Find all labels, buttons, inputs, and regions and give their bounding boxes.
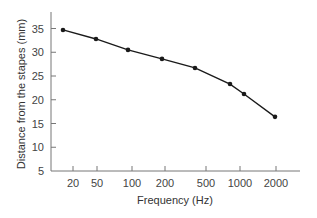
line-chart: 5101520253035 205010020050010002000 Freq… <box>0 0 317 218</box>
y-tick-label: 20 <box>32 94 44 106</box>
x-tick-label: 2000 <box>264 177 288 189</box>
x-tick-label: 500 <box>197 177 215 189</box>
data-point <box>94 37 99 42</box>
y-tick-label: 25 <box>32 70 44 82</box>
y-tick-label: 5 <box>38 165 44 177</box>
x-tick-label: 100 <box>123 177 141 189</box>
y-tick-label: 15 <box>32 118 44 130</box>
y-tick-label: 10 <box>32 141 44 153</box>
x-tick-label: 50 <box>91 177 103 189</box>
data-series <box>61 28 278 120</box>
data-point <box>242 92 247 97</box>
x-tick-label: 20 <box>67 177 79 189</box>
y-tick-label: 35 <box>32 23 44 35</box>
data-point <box>273 115 278 120</box>
x-axis: 205010020050010002000 <box>51 166 300 189</box>
y-tick-label: 30 <box>32 46 44 58</box>
y-axis: 5101520253035 <box>32 12 56 177</box>
y-axis-label: Distance from the stapes (mm) <box>15 19 27 169</box>
series-line <box>63 30 275 117</box>
data-point <box>61 28 66 33</box>
x-tick-label: 200 <box>156 177 174 189</box>
x-tick-label: 1000 <box>228 177 252 189</box>
x-axis-label: Frequency (Hz) <box>137 194 213 206</box>
data-point <box>160 57 165 62</box>
data-point <box>126 48 131 53</box>
data-point <box>228 82 233 87</box>
data-point <box>193 66 198 71</box>
